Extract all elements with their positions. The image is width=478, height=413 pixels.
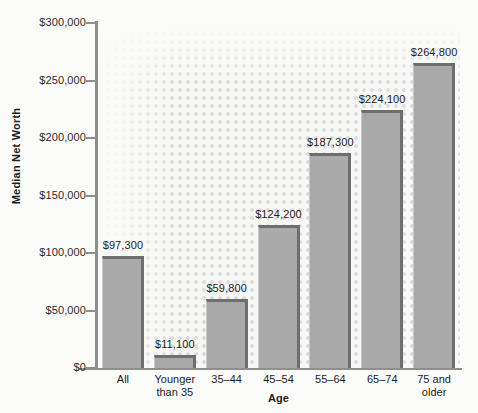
bar bbox=[309, 153, 351, 368]
bar bbox=[361, 110, 403, 368]
y-axis-tick-mark bbox=[86, 252, 95, 254]
y-axis-tick-mark bbox=[86, 310, 95, 312]
y-axis-tick-label: $150,000 bbox=[16, 189, 86, 201]
y-axis-line bbox=[95, 21, 98, 370]
y-axis-tick-label: $0 bbox=[16, 361, 86, 373]
y-axis-tick-mark bbox=[86, 80, 95, 82]
bar-chart: $0$50,000$100,000$150,000$200,000$250,00… bbox=[0, 0, 478, 413]
y-axis-tick-label: $250,000 bbox=[16, 74, 86, 86]
bar bbox=[258, 225, 300, 368]
y-axis-tick-label: $100,000 bbox=[16, 246, 86, 258]
x-axis-line bbox=[78, 368, 462, 370]
bar bbox=[154, 355, 196, 368]
y-axis-tick-label: $300,000 bbox=[16, 16, 86, 28]
bar bbox=[206, 299, 248, 368]
y-axis-title: Median Net Worth bbox=[10, 96, 22, 216]
y-axis-tick-mark bbox=[86, 195, 95, 197]
y-axis-tick-label: $200,000 bbox=[16, 131, 86, 143]
y-axis-tick-mark bbox=[86, 22, 95, 24]
y-axis-tick-label: $50,000 bbox=[16, 304, 86, 316]
bar-value-label: $97,300 bbox=[78, 239, 168, 251]
x-axis-category-label: 75 and older bbox=[400, 373, 468, 399]
bar bbox=[413, 63, 455, 368]
y-axis-tick-mark bbox=[86, 137, 95, 139]
y-axis-tick-mark bbox=[86, 367, 95, 369]
bar-value-label: $264,800 bbox=[389, 46, 478, 58]
bar bbox=[102, 256, 144, 368]
